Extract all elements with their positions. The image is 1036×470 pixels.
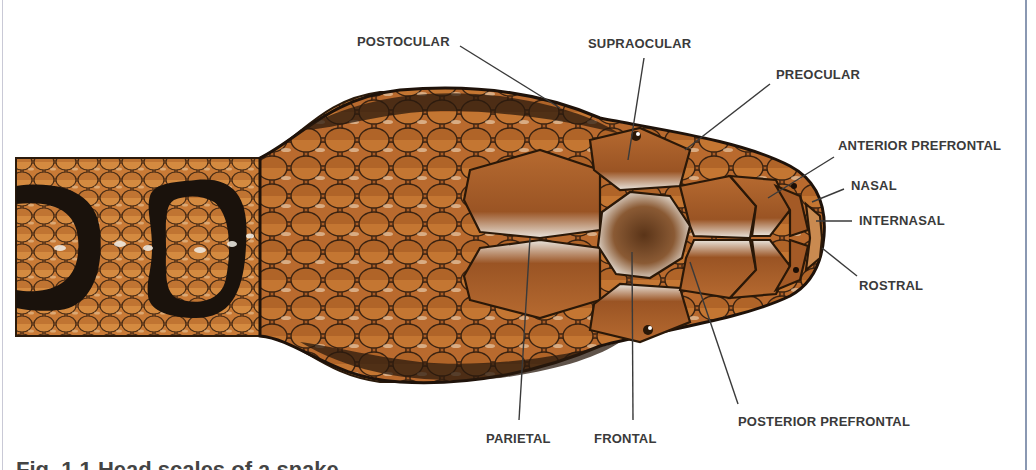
leader-line-rostral — [822, 248, 857, 276]
label-anterior-prefrontal: ANTERIOR PREFRONTAL — [838, 138, 1001, 153]
label-internasal: INTERNASAL — [859, 213, 945, 228]
label-preocular: PREOCULAR — [776, 67, 860, 82]
label-posterior-prefrontal: POSTERIOR PREFRONTAL — [738, 414, 910, 429]
label-supraocular: SUPRAOCULAR — [588, 36, 691, 51]
label-nasal: NASAL — [851, 178, 897, 193]
label-rostral: ROSTRAL — [859, 278, 923, 293]
leader-line-preocular — [685, 84, 770, 150]
diagram-stage: POSTOCULAR SUPRAOCULAR PREOCULAR ANTERIO… — [0, 0, 1036, 470]
leader-line-frontal — [632, 252, 633, 420]
label-parietal: PARIETAL — [486, 431, 551, 446]
snake-head-illustration — [0, 0, 1036, 470]
label-frontal: FRONTAL — [594, 431, 657, 446]
figure-caption: Fig. 1.1 Head scales of a snake — [16, 458, 339, 470]
label-postocular: POSTOCULAR — [357, 34, 450, 49]
snake-head — [260, 88, 824, 383]
